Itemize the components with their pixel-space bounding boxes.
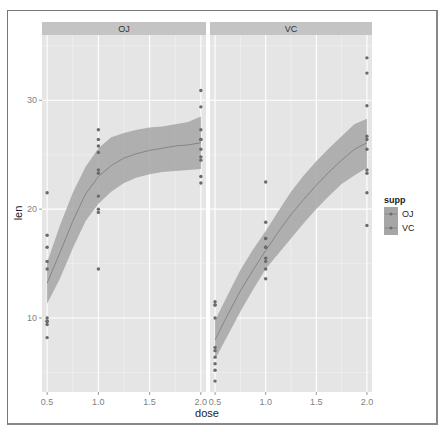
- data-point: [45, 323, 48, 326]
- y-tick-label: 20: [27, 204, 37, 214]
- data-point: [97, 138, 100, 141]
- data-point: [365, 224, 368, 227]
- x-tick-label: 0.5: [209, 397, 222, 407]
- data-point: [213, 349, 216, 352]
- data-point: [365, 191, 368, 194]
- data-point: [264, 237, 267, 240]
- data-point: [97, 194, 100, 197]
- data-point: [199, 181, 202, 184]
- data-point: [199, 175, 202, 178]
- facet-strip-label: VC: [285, 24, 298, 34]
- data-point: [264, 277, 267, 280]
- data-point: [213, 303, 216, 306]
- data-point: [97, 207, 100, 210]
- data-point: [97, 168, 100, 171]
- data-point: [213, 369, 216, 372]
- data-point: [264, 256, 267, 259]
- data-point: [97, 211, 100, 214]
- data-point: [365, 71, 368, 74]
- facet-panel-vc: VC: [210, 22, 372, 392]
- data-point: [213, 346, 216, 349]
- data-point: [365, 148, 368, 151]
- data-point: [365, 138, 368, 141]
- data-point: [45, 260, 48, 263]
- data-point: [199, 155, 202, 158]
- data-point: [97, 267, 100, 270]
- data-point: [213, 316, 216, 319]
- data-point: [264, 260, 267, 263]
- data-point: [264, 180, 267, 183]
- data-point: [45, 234, 48, 237]
- x-tick-label: 0.5: [41, 397, 54, 407]
- x-tick-label: 2.0: [195, 397, 208, 407]
- legend-label-oj: OJ: [402, 209, 414, 219]
- facet-panel-oj: OJ: [42, 22, 206, 392]
- legend-title: supp: [384, 195, 406, 205]
- data-point: [97, 144, 100, 147]
- data-point: [45, 316, 48, 319]
- x-tick-label: 2.0: [361, 397, 374, 407]
- data-point: [199, 105, 202, 108]
- data-point: [199, 128, 202, 131]
- y-tick-label: 30: [27, 95, 37, 105]
- data-point: [365, 172, 368, 175]
- data-point: [199, 138, 202, 141]
- x-tick-label: 1.0: [259, 397, 272, 407]
- data-point: [45, 336, 48, 339]
- data-point: [45, 191, 48, 194]
- data-point: [365, 135, 368, 138]
- data-point: [365, 56, 368, 59]
- data-point: [97, 128, 100, 131]
- legend-label-vc: VC: [402, 223, 415, 233]
- data-point: [365, 168, 368, 171]
- data-point: [199, 158, 202, 161]
- data-point: [213, 355, 216, 358]
- data-point: [213, 362, 216, 365]
- x-tick-label: 1.0: [92, 397, 105, 407]
- data-point: [264, 221, 267, 224]
- data-point: [213, 379, 216, 382]
- data-point: [199, 148, 202, 151]
- x-axis-title: dose: [195, 407, 219, 419]
- legend: suppOJVC: [384, 195, 415, 235]
- x-tick-label: 1.5: [310, 397, 323, 407]
- x-tick-label: 1.5: [143, 397, 156, 407]
- faceted-scatter-chart: OJVC 0.51.01.52.00.51.01.52.0102030dosel…: [0, 0, 444, 432]
- data-point: [365, 104, 368, 107]
- data-point: [213, 300, 216, 303]
- data-point: [45, 267, 48, 270]
- data-point: [45, 246, 48, 249]
- y-axis-title: len: [12, 206, 24, 221]
- data-point: [264, 267, 267, 270]
- facet-strip-label: OJ: [118, 24, 130, 34]
- data-point: [199, 89, 202, 92]
- data-point: [45, 320, 48, 323]
- data-point: [264, 246, 267, 249]
- data-point: [97, 151, 100, 154]
- y-tick-label: 10: [27, 313, 37, 323]
- data-point: [97, 172, 100, 175]
